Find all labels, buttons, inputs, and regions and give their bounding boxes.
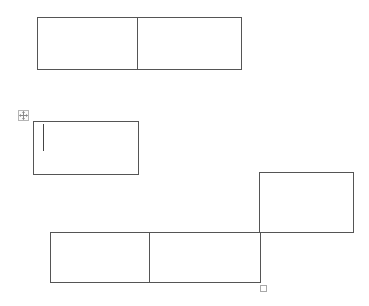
table-cell[interactable] [138,18,242,70]
table-1[interactable] [37,17,242,70]
table-3-floating-cell[interactable] [259,172,354,233]
table-2[interactable] [33,121,139,175]
table-cell[interactable] [150,233,261,283]
table-cell[interactable] [34,122,139,175]
text-cursor [43,124,44,151]
table-row [260,173,354,233]
document-canvas[interactable] [0,0,369,306]
table-cell[interactable] [51,233,150,283]
table-row [34,122,139,175]
table-move-handle[interactable] [18,110,29,121]
table-row [38,18,242,70]
table-cell[interactable] [260,173,354,233]
table-cell[interactable] [38,18,138,70]
move-arrows-icon [19,111,28,120]
table-4[interactable] [50,232,261,283]
table-row [51,233,261,283]
table-resize-handle[interactable] [260,285,267,292]
